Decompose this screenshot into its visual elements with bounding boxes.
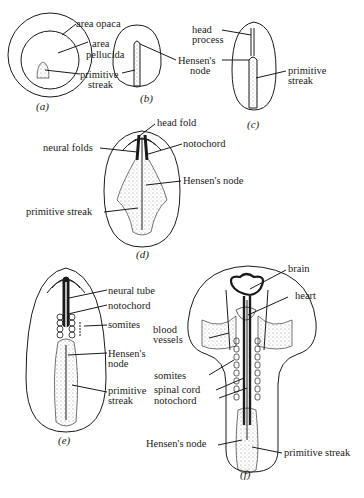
label-primitive-streak-e-line2: streak: [108, 395, 133, 406]
label-hensens-node-f: Hensen's node: [146, 438, 207, 449]
caption-c: (c): [247, 118, 259, 130]
label-blood-vessels-line2: vessels: [153, 334, 183, 345]
label-somites-e: somites: [108, 319, 140, 330]
label-hensens-node-b-line2: node: [190, 65, 210, 76]
label-area-opaca: area opaca: [76, 18, 121, 29]
label-somites-f: somites: [154, 370, 186, 381]
label-spinal-cord: spinal cord: [154, 384, 200, 395]
label-notochord-d: notochord: [183, 138, 226, 149]
label-primitive-streak-c-line2: streak: [288, 75, 313, 86]
caption-a: (a): [36, 100, 49, 112]
panel-c-drawing: [222, 22, 286, 110]
caption-b: (b): [140, 92, 153, 104]
label-neural-folds: neural folds: [43, 142, 93, 153]
label-hensens-node-d: Hensen's node: [183, 175, 244, 186]
label-notochord-f: notochord: [154, 395, 197, 406]
label-head-fold: head fold: [157, 117, 196, 128]
panel-e-drawing: [26, 268, 107, 432]
label-area-pellucida-line1: area: [92, 38, 109, 49]
label-area-pellucida-line2: pellucida: [86, 49, 124, 60]
label-head-process-line2: process: [192, 34, 224, 45]
label-hensens-node-e-line2: node: [108, 358, 128, 369]
label-primitive-streak-d: primitive streak: [26, 206, 92, 217]
label-notochord-e: notochord: [108, 300, 151, 311]
panel-d-drawing: [100, 124, 182, 247]
label-primitive-streak-f: primitive streak: [284, 447, 350, 458]
caption-d: (d): [136, 248, 149, 260]
label-primitive-streak-a-line2: streak: [88, 79, 113, 90]
label-brain: brain: [288, 263, 310, 274]
label-neural-tube: neural tube: [108, 285, 155, 296]
caption-e: (e): [58, 434, 70, 446]
label-heart: heart: [295, 290, 316, 301]
caption-f: (f): [240, 468, 250, 480]
